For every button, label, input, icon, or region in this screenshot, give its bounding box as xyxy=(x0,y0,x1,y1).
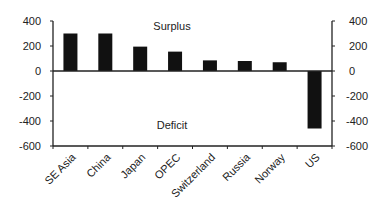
category-label: Russia xyxy=(220,150,253,183)
right-tick-label: 200 xyxy=(349,40,367,52)
left-y-axis: 4002000-200-400-600 xyxy=(19,15,53,152)
category-label: Norway xyxy=(252,151,287,186)
deficit-annotation: Deficit xyxy=(157,119,188,131)
left-tick-label: 0 xyxy=(35,65,41,77)
category-label: China xyxy=(84,150,113,179)
bar-russia xyxy=(238,61,252,71)
bar-us xyxy=(308,71,322,129)
right-tick-label: -600 xyxy=(346,140,368,152)
right-tick-label: -200 xyxy=(346,90,368,102)
x-axis: SE AsiaChinaJapanOPECSwitzerlandRussiaNo… xyxy=(42,71,332,200)
bar-norway xyxy=(273,62,287,71)
category-label: Japan xyxy=(118,151,148,181)
category-label: OPEC xyxy=(152,151,183,182)
left-tick-label: 200 xyxy=(23,40,41,52)
bar-opec xyxy=(168,52,182,71)
left-tick-label: -200 xyxy=(19,90,41,102)
bars xyxy=(63,34,321,129)
category-label: US xyxy=(303,151,322,170)
right-y-axis: 4002000-200-400-600 xyxy=(332,15,368,152)
left-tick-label: -600 xyxy=(19,140,41,152)
left-tick-label: -400 xyxy=(19,115,41,127)
left-tick-label: 400 xyxy=(23,15,41,27)
bar-switzerland xyxy=(203,60,217,71)
right-tick-label: 0 xyxy=(349,65,355,77)
category-label: SE Asia xyxy=(42,150,78,186)
surplus-annotation: Surplus xyxy=(153,20,191,32)
bar-china xyxy=(98,34,112,72)
bar-chart: 4002000-200-400-600 4002000-200-400-600 … xyxy=(0,0,389,221)
bar-japan xyxy=(133,47,147,71)
right-tick-label: -400 xyxy=(346,115,368,127)
right-tick-label: 400 xyxy=(349,15,367,27)
bar-se-asia xyxy=(63,34,77,72)
